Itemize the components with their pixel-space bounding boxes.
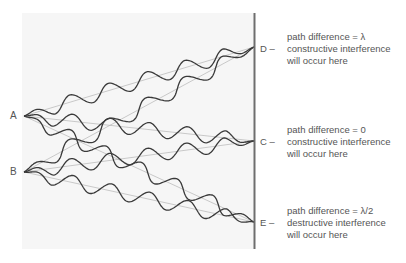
point-label-c: C – [260, 136, 275, 148]
annotation-c-line1: path difference = 0 [287, 124, 391, 136]
point-label-d: D – [260, 43, 275, 55]
annotation-d: D – path difference = λ constructive int… [287, 31, 391, 67]
annotation-d-line1: path difference = λ [287, 31, 391, 43]
annotation-c-line3: will occur here [287, 148, 391, 160]
annotation-e-line3: will occur here [287, 229, 386, 241]
annotation-c-line2: constructive interference [287, 136, 391, 148]
point-label-e: E – [260, 217, 274, 229]
annotation-e-line1: path difference = λ/2 [287, 205, 386, 217]
annotation-e: E – path difference = λ/2 destructive in… [287, 205, 386, 241]
annotation-d-line3: will occur here [287, 55, 391, 67]
source-label-a: A [10, 110, 17, 122]
annotation-e-line2: destructive interference [287, 217, 386, 229]
annotation-d-line2: constructive interference [287, 43, 391, 55]
annotation-c: C – path difference = 0 constructive int… [287, 124, 391, 160]
source-label-b: B [10, 166, 17, 178]
